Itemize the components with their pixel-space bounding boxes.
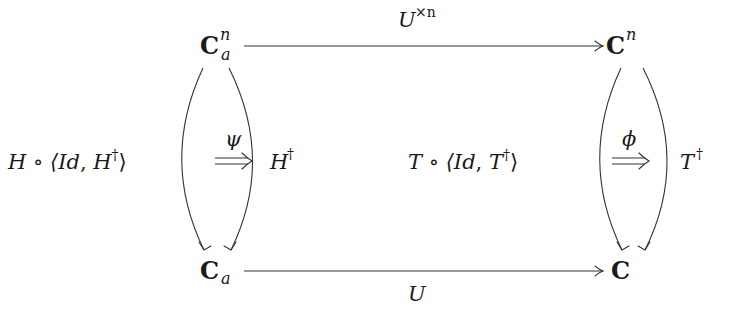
arrow-right-outer: T ∘ ⟨Id, T†⟩	[408, 68, 629, 250]
label-main: T ∘ ⟨	[408, 150, 455, 174]
label-close: ⟩	[119, 150, 127, 174]
commutative-diagram: C n a C n C a C U ×n U H ∘ ⟨Id, H†⟩	[0, 0, 731, 312]
two-cell-left-label: ψ	[225, 127, 242, 151]
node-top-right-sup: n	[626, 25, 636, 44]
arrow-right-inner-label-base: T	[680, 150, 696, 174]
arrow-top: U ×n	[244, 4, 603, 51]
arrow-top-label-sup: ×n	[415, 4, 436, 20]
node-top-left-sup: n	[220, 25, 230, 44]
arrow-right-outer-label: T ∘ ⟨Id, T†⟩	[408, 147, 518, 174]
node-bottom-left-base: C	[200, 256, 219, 285]
arrow-left-inner-label-sup: †	[287, 146, 294, 162]
node-top-left: C n a	[200, 25, 231, 64]
label-id: Id	[453, 150, 476, 174]
double-arrow-head-icon	[639, 153, 649, 169]
two-cell-right-label: ϕ	[622, 127, 636, 151]
node-top-right: C n	[606, 25, 636, 60]
arrow-left-outer: H ∘ ⟨Id, H†⟩	[7, 68, 211, 250]
label-sep: ,	[80, 150, 93, 174]
two-cell-right: ϕ	[612, 127, 649, 169]
two-cell-left: ψ	[215, 127, 252, 169]
label-h: H	[92, 150, 112, 174]
label-close: ⟩	[510, 150, 518, 174]
label-main: H ∘ ⟨	[7, 150, 59, 174]
node-bottom-right: C	[611, 256, 630, 285]
arrow-bottom: U	[244, 266, 603, 306]
arrow-right-outer-curve	[600, 68, 622, 250]
label-dagger: †	[112, 147, 119, 163]
node-top-left-sub: a	[221, 45, 231, 64]
arrow-right-inner-label-sup: †	[696, 146, 703, 162]
arrow-left-outer-curve	[182, 68, 204, 250]
node-bottom-left-sub: a	[221, 269, 231, 288]
arrow-bottom-label: U	[408, 282, 427, 306]
label-id: Id	[57, 150, 80, 174]
node-top-left-base: C	[200, 31, 219, 60]
arrow-left-inner-label-base: H	[269, 150, 289, 174]
arrow-right-inner: T †	[638, 68, 703, 250]
node-bottom-left: C a	[200, 256, 231, 288]
double-arrow-head-icon	[242, 153, 252, 169]
arrow-left-inner: H †	[224, 68, 294, 250]
node-top-right-base: C	[606, 31, 625, 60]
label-sep: ,	[476, 150, 489, 174]
arrow-left-outer-label: H ∘ ⟨Id, H†⟩	[7, 147, 127, 174]
node-bottom-right-base: C	[611, 256, 630, 285]
label-dagger: †	[503, 147, 510, 163]
